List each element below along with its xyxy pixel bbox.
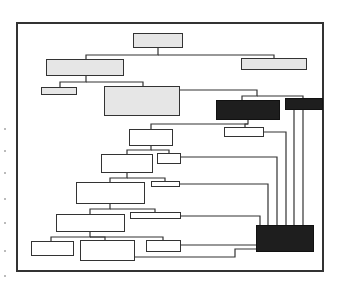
node-dark-b <box>285 98 323 110</box>
node-l1-right <box>241 58 307 70</box>
margin-tick <box>4 172 6 174</box>
margin-tick <box>4 128 6 130</box>
node-l1-left <box>46 59 124 76</box>
node-n4 <box>56 214 125 232</box>
node-n5-b <box>80 240 135 261</box>
node-l2-big <box>104 86 180 116</box>
node-root <box>133 33 183 48</box>
node-dark-a <box>216 100 280 120</box>
margin-tick <box>4 275 6 277</box>
margin-tick <box>4 150 6 152</box>
margin-tick <box>4 198 6 200</box>
margin-tick <box>4 250 6 252</box>
node-n2-side <box>157 153 181 164</box>
node-dark-c <box>256 225 314 252</box>
node-n5-a <box>31 241 74 256</box>
margin-tick <box>4 222 6 224</box>
node-n2 <box>101 154 153 173</box>
node-n1 <box>129 129 173 146</box>
node-n1-side <box>224 127 264 137</box>
node-n3 <box>76 182 145 204</box>
node-n5-c <box>146 240 181 252</box>
node-n3-side <box>151 181 180 187</box>
node-l2-small <box>41 87 77 95</box>
node-n4-side <box>130 212 181 219</box>
